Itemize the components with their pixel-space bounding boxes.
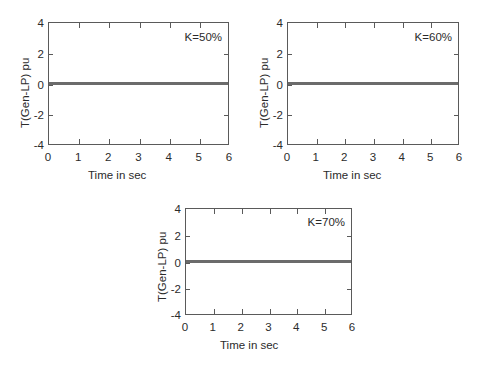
x-axis-label: Time in sec: [88, 170, 146, 182]
ytick-label: -4: [24, 140, 44, 152]
xtick-label: 0: [37, 152, 59, 164]
xtick-mark: [403, 23, 404, 28]
ytick-mark: [347, 289, 351, 290]
xtick-label: 3: [362, 152, 384, 164]
ytick-mark: [347, 236, 351, 237]
plot-frame-k50: K=50%: [48, 22, 229, 145]
xtick-label: 1: [202, 322, 224, 334]
xtick-mark: [270, 209, 271, 214]
xtick-label: 6: [341, 322, 363, 334]
xtick-label: 4: [285, 322, 307, 334]
chart-panel-k70: K=70% 4 2 0 -2 -4 0 1 2 3 4 5 6 Time in …: [137, 190, 378, 373]
xtick-mark: [325, 209, 326, 214]
annotation-k-value: K=50%: [185, 32, 222, 44]
ytick-mark: [288, 85, 292, 86]
xtick-mark: [297, 209, 298, 214]
xtick-mark: [431, 139, 432, 144]
ytick-mark: [288, 54, 292, 55]
xtick-mark: [403, 139, 404, 144]
xtick-label: 0: [174, 322, 196, 334]
chart-panel-k60: K=60% 4 2 0 -2 -4 0 1 2 3 4 5 6 Time in …: [241, 0, 482, 190]
xtick-label: 1: [305, 152, 327, 164]
ytick-mark: [224, 54, 228, 55]
ytick-label: -4: [161, 310, 181, 322]
y-axis-label: T(Gen-LP) pu: [20, 58, 32, 128]
xtick-mark: [214, 209, 215, 214]
x-axis-label: Time in sec: [323, 170, 381, 182]
xtick-label: 5: [188, 152, 210, 164]
data-trace-k50: [49, 82, 228, 85]
xtick-label: 2: [97, 152, 119, 164]
xtick-mark: [374, 139, 375, 144]
ytick-label: -4: [263, 140, 283, 152]
xtick-label: 1: [67, 152, 89, 164]
ytick-mark: [49, 54, 53, 55]
xtick-mark: [170, 139, 171, 144]
xtick-label: 3: [128, 152, 150, 164]
data-trace-k70: [186, 260, 351, 263]
plot-frame-k70: K=70%: [185, 208, 352, 315]
xtick-mark: [214, 309, 215, 314]
annotation-k-value: K=70%: [308, 217, 345, 229]
x-axis-label: Time in sec: [220, 340, 278, 352]
annotation-k-value: K=60%: [415, 32, 452, 44]
data-trace-k60: [288, 82, 458, 85]
xtick-mark: [79, 23, 80, 28]
xtick-label: 4: [391, 152, 413, 164]
xtick-label: 6: [218, 152, 240, 164]
xtick-label: 2: [230, 322, 252, 334]
ytick-mark: [186, 236, 190, 237]
xtick-label: 4: [158, 152, 180, 164]
ytick-label: 4: [24, 18, 44, 30]
ytick-label: 4: [263, 18, 283, 30]
xtick-mark: [325, 309, 326, 314]
xtick-mark: [431, 23, 432, 28]
xtick-mark: [170, 23, 171, 28]
y-axis-label: T(Gen-LP) pu: [157, 232, 169, 302]
xtick-mark: [317, 23, 318, 28]
plot-frame-k60: K=60%: [287, 22, 459, 145]
xtick-mark: [140, 139, 141, 144]
y-axis-label: T(Gen-LP) pu: [259, 58, 271, 128]
xtick-mark: [345, 23, 346, 28]
ytick-mark: [186, 263, 190, 264]
xtick-mark: [200, 23, 201, 28]
xtick-mark: [109, 139, 110, 144]
ytick-mark: [454, 115, 458, 116]
xtick-label: 5: [419, 152, 441, 164]
xtick-mark: [374, 23, 375, 28]
xtick-mark: [109, 23, 110, 28]
xtick-mark: [242, 309, 243, 314]
ytick-mark: [288, 115, 292, 116]
ytick-mark: [186, 289, 190, 290]
xtick-label: 5: [313, 322, 335, 334]
xtick-mark: [200, 139, 201, 144]
xtick-mark: [140, 23, 141, 28]
xtick-mark: [317, 139, 318, 144]
xtick-mark: [297, 309, 298, 314]
xtick-label: 6: [448, 152, 470, 164]
ytick-mark: [49, 85, 53, 86]
chart-panel-k50: K=50% 4 2 0 -2 -4 0 1 2 3 4 5 6 Time in …: [0, 0, 241, 190]
ytick-mark: [49, 115, 53, 116]
xtick-label: 2: [333, 152, 355, 164]
xtick-label: 3: [258, 322, 280, 334]
xtick-label: 0: [276, 152, 298, 164]
ytick-label: 4: [161, 204, 181, 216]
xtick-mark: [242, 209, 243, 214]
xtick-mark: [79, 139, 80, 144]
ytick-mark: [224, 115, 228, 116]
xtick-mark: [270, 309, 271, 314]
xtick-mark: [345, 139, 346, 144]
ytick-mark: [454, 54, 458, 55]
